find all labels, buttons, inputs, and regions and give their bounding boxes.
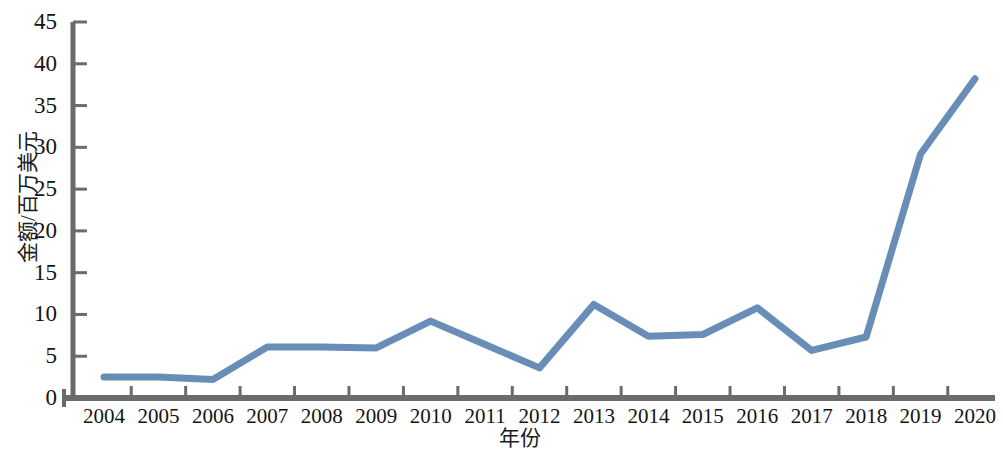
series-line xyxy=(104,79,975,380)
axes xyxy=(64,22,995,407)
data-series xyxy=(104,79,975,380)
